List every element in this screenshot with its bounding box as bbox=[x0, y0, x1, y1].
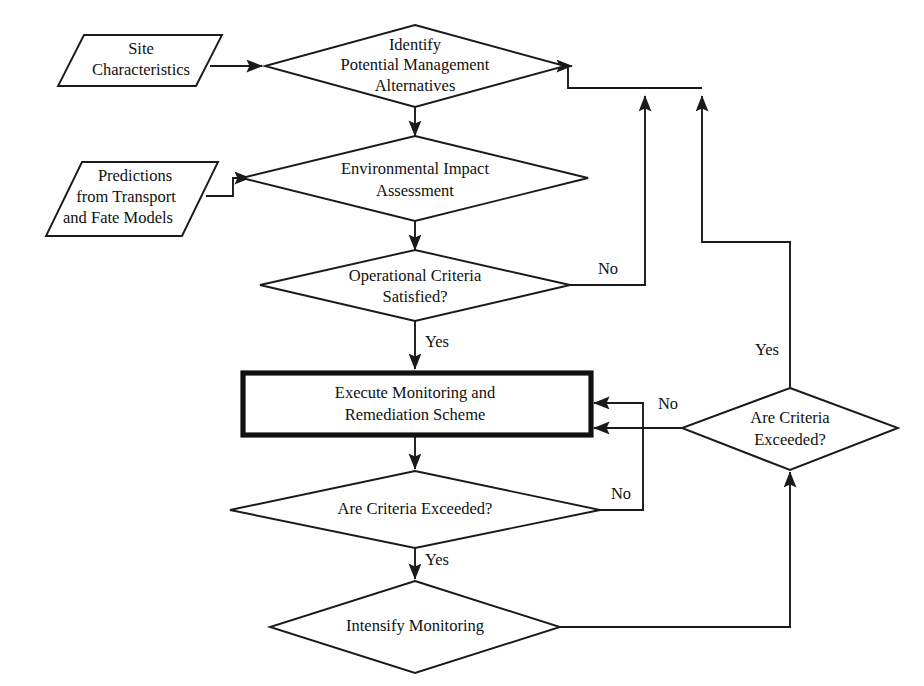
environmental-impact-label-line2: Assessment bbox=[376, 181, 454, 200]
edge-merge-to-identify bbox=[568, 66, 645, 88]
identify-alternatives-label-line1: Identify bbox=[389, 35, 442, 54]
criteria-exceeded-lower-label: Are Criteria Exceeded? bbox=[338, 499, 493, 518]
predictions-models-label-line1: Predictions bbox=[98, 166, 172, 185]
edge-intensify-to-right-exceeded bbox=[560, 472, 790, 627]
edge-operational-no bbox=[567, 96, 645, 285]
environmental-impact-label-line1: Environmental Impact bbox=[341, 159, 489, 178]
flowchart-canvas: Site Characteristics Identify Potential … bbox=[0, 0, 924, 686]
flowchart-svg: Site Characteristics Identify Potential … bbox=[0, 0, 924, 686]
identify-alternatives-label-line3: Alternatives bbox=[375, 76, 456, 95]
node-operational-criteria bbox=[260, 250, 570, 321]
identify-alternatives-label-line2: Potential Management bbox=[341, 55, 490, 74]
edge-label-lower-exceeded-yes: Yes bbox=[425, 550, 449, 569]
operational-criteria-label-line1: Operational Criteria bbox=[349, 266, 482, 285]
edge-label-right-exceeded-no: No bbox=[658, 394, 678, 413]
predictions-models-label-line2: from Transport bbox=[76, 187, 176, 206]
edge-label-operational-yes: Yes bbox=[425, 332, 449, 351]
edge-label-operational-no: No bbox=[598, 259, 618, 278]
node-environmental-impact bbox=[242, 136, 588, 221]
edge-predictions-to-impact bbox=[206, 178, 250, 196]
edge-label-lower-exceeded-no: No bbox=[611, 484, 631, 503]
predictions-models-label-line3: and Fate Models bbox=[63, 208, 173, 227]
criteria-exceeded-right-label-line2: Exceeded? bbox=[754, 430, 825, 449]
intensify-monitoring-label: Intensify Monitoring bbox=[346, 616, 484, 635]
site-characteristics-label-line2: Characteristics bbox=[92, 60, 190, 79]
operational-criteria-label-line2: Satisfied? bbox=[382, 287, 447, 306]
criteria-exceeded-right-label-line1: Are Criteria bbox=[750, 408, 830, 427]
execute-monitoring-label-line2: Remediation Scheme bbox=[345, 405, 486, 424]
execute-monitoring-label-line1: Execute Monitoring and bbox=[335, 383, 496, 402]
edge-label-right-exceeded-yes: Yes bbox=[755, 340, 779, 359]
site-characteristics-label-line1: Site bbox=[128, 39, 154, 58]
